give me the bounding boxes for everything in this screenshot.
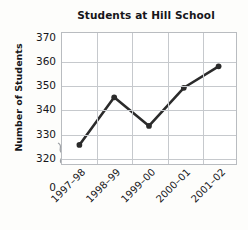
data-point-marker: [77, 142, 83, 148]
chart-title: Students at Hill School: [46, 9, 246, 21]
x-axis-tick-labels: 1997–981998–991999–002000–012001–02: [61, 167, 237, 229]
x-tick-label: 1998–99: [84, 166, 122, 204]
y-tick-label: 350: [24, 80, 56, 91]
y-tick-label: 330: [24, 129, 56, 140]
x-tick-label: 2001–02: [189, 166, 227, 204]
gridline-vertical: [203, 33, 204, 164]
gridline-horizontal: [62, 86, 236, 87]
gridline-vertical: [97, 33, 98, 164]
data-point-marker: [146, 123, 152, 129]
line-chart-figure: Students at Hill School Number of Studen…: [0, 0, 248, 230]
x-tick-label: 2000–01: [154, 166, 192, 204]
y-tick-label: 370: [24, 32, 56, 43]
gridline-vertical: [132, 33, 133, 164]
gridline-horizontal: [62, 110, 236, 111]
y-tick-label: 0: [24, 182, 56, 193]
y-tick-label: 340: [24, 104, 56, 115]
y-axis-tick-labels: 3703603503403303200: [24, 28, 56, 168]
plot-area: [61, 32, 237, 165]
data-point-marker: [216, 63, 222, 69]
y-axis-title: Number of Students: [13, 33, 24, 163]
x-tick-label: 1999–00: [119, 166, 157, 204]
gridline-horizontal: [62, 135, 236, 136]
data-point-marker: [111, 94, 117, 100]
series-line: [79, 66, 218, 145]
gridline-vertical: [168, 33, 169, 164]
y-tick-label: 320: [24, 153, 56, 164]
y-tick-label: 360: [24, 56, 56, 67]
gridline-horizontal: [62, 159, 236, 160]
data-line-series: [62, 33, 236, 164]
gridline-horizontal: [62, 62, 236, 63]
